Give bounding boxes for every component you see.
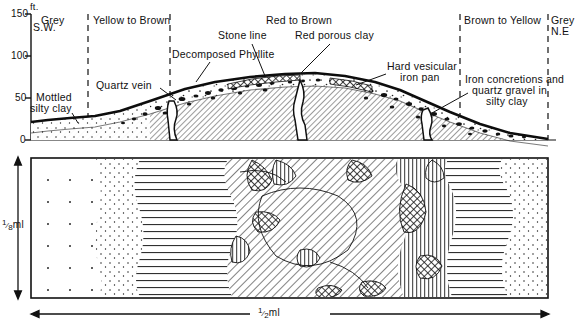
- vertical-scale-label: 1⁄8ml: [2, 219, 24, 231]
- horizontal-scale-numerator: 1: [258, 306, 263, 315]
- annotation-iron-concretions-line3: silty clay: [486, 96, 528, 107]
- annotation-stone-line: Stone line: [218, 30, 267, 41]
- annotation-quartz-vein: Quartz vein: [96, 80, 152, 91]
- direction-marker-ne: N.E: [551, 26, 569, 37]
- y-tick-100: 100: [11, 50, 28, 61]
- y-tick-150: 150: [11, 8, 28, 19]
- y-axis-unit-label: ft.: [30, 1, 39, 12]
- annotation-iron-pan-line2: iron pan: [400, 72, 440, 83]
- zone-label-yellow-to-brown: Yellow to Brown: [93, 15, 170, 26]
- zone-label-red-to-brown: Red to Brown: [266, 15, 332, 26]
- geological-cross-section-figure: [0, 0, 576, 330]
- plan-view-panel: [31, 158, 548, 298]
- annotation-mottled-silty-clay-line2: silty clay: [30, 103, 72, 114]
- plan-zone-brown: [134, 159, 237, 297]
- zone-label-brown-to-yellow: Brown to Yellow: [464, 15, 541, 26]
- zone-label-grey-ne: Grey: [551, 15, 575, 26]
- vertical-scale-fraction: 1⁄8: [2, 219, 13, 231]
- plan-zone-grey: [32, 159, 102, 297]
- annotation-decomposed-phyllite: Decomposed Phyllite: [172, 49, 274, 60]
- horizontal-scale-unit: ml: [269, 307, 280, 318]
- horizontal-scale-denominator: 2: [264, 311, 269, 320]
- annotation-red-porous-clay: Red porous clay: [295, 30, 374, 41]
- vertical-scale-unit: ml: [13, 219, 24, 230]
- figure-root: ft. 150 100 50 0 S.W. N.E Grey Yellow to…: [0, 0, 576, 330]
- vertical-scale-numerator: 1: [2, 218, 7, 227]
- horizontal-scale-fraction: 1⁄2: [258, 307, 269, 319]
- vertical-scale-denominator: 8: [8, 223, 13, 232]
- y-tick-0: 0: [20, 134, 26, 145]
- y-tick-50: 50: [15, 92, 27, 103]
- zone-label-grey-sw: Grey: [41, 15, 65, 26]
- horizontal-scale-label: 1⁄2ml: [258, 307, 280, 319]
